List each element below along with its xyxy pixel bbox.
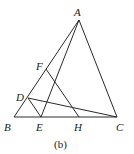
- label-c: C: [116, 121, 124, 133]
- label-d: D: [15, 91, 24, 103]
- segment-ac: [79, 20, 117, 117]
- figure-caption: (b): [54, 138, 67, 151]
- label-e: E: [35, 121, 43, 133]
- label-b: B: [4, 121, 11, 133]
- label-f: F: [35, 60, 43, 72]
- label-a: A: [73, 6, 81, 18]
- label-h: H: [73, 121, 83, 133]
- segment-fh: [46, 69, 79, 117]
- geometry-figure: A B C D E F H (b): [0, 0, 134, 154]
